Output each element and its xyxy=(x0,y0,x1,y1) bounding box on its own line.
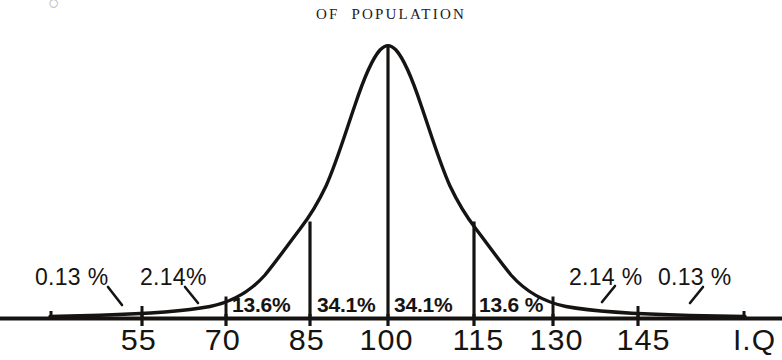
axis-label-55: 55 xyxy=(121,325,157,355)
pct-callout-right-2-14: 2.14 % xyxy=(569,266,642,289)
pct-band-13-6-left: 13.6% xyxy=(232,294,291,315)
pct-band-34-1-right: 34.1% xyxy=(394,294,453,315)
pct-callout-left-2-14: 2.14% xyxy=(140,266,207,289)
axis-label-100: 100 xyxy=(359,325,413,355)
pct-band-34-1-left: 34.1% xyxy=(317,294,376,315)
pct-band-13-6-right: 13.6 % xyxy=(479,294,543,315)
axis-label-85: 85 xyxy=(289,325,325,355)
axis-label-115: 115 xyxy=(452,325,504,355)
leader-line-0-13-left xyxy=(108,287,122,305)
axis-label-130: 130 xyxy=(529,325,583,355)
axis-name-iq: I.Q xyxy=(733,325,776,355)
pct-callout-right-0-13: 0.13 % xyxy=(658,266,731,289)
figure-canvas: ○ OF POPULATION xyxy=(0,0,782,360)
axis-label-70: 70 xyxy=(205,325,241,355)
axis-label-145: 145 xyxy=(616,325,670,355)
pct-callout-left-0-13: 0.13 % xyxy=(35,266,108,289)
bell-curve-plot xyxy=(0,0,782,360)
